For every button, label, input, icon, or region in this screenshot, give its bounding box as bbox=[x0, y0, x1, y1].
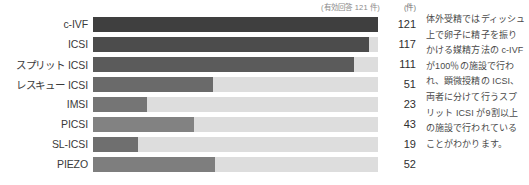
bar-category-label: c-IVF bbox=[0, 14, 88, 34]
bar-row: スプリット ICSI111 bbox=[0, 54, 420, 74]
bar-track bbox=[93, 117, 378, 132]
commentary-text: 体外受精ではディッシュ上で卵子に精子を振りかける媒精方法の c-IVF が100… bbox=[426, 12, 526, 152]
bar-track bbox=[93, 57, 378, 72]
bar-row: IMSI23 bbox=[0, 94, 420, 114]
bar-value-label: 43 bbox=[386, 114, 416, 134]
bar-row: PICSI43 bbox=[0, 114, 420, 134]
bar-track bbox=[93, 157, 378, 172]
bar-category-label: ICSI bbox=[0, 34, 88, 54]
bar-row: PIEZO52 bbox=[0, 154, 420, 174]
bar-value-label: 117 bbox=[386, 34, 416, 54]
bar-category-label: SL-ICSI bbox=[0, 134, 88, 154]
bar-fill bbox=[93, 137, 138, 152]
chart-header: (有効回答 121 件) (件) bbox=[0, 0, 420, 14]
bar-fill bbox=[93, 17, 378, 32]
bar-category-label: PIEZO bbox=[0, 154, 88, 174]
bar-track bbox=[93, 137, 378, 152]
bar-category-label: スプリット ICSI bbox=[0, 54, 88, 74]
bar-value-label: 121 bbox=[386, 14, 416, 34]
bar-row: ICSI117 bbox=[0, 34, 420, 54]
bar-fill bbox=[93, 57, 354, 72]
bar-value-label: 111 bbox=[386, 54, 416, 74]
bar-fill bbox=[93, 157, 215, 172]
bar-track bbox=[93, 97, 378, 112]
bar-track bbox=[93, 37, 378, 52]
bar-fill bbox=[93, 77, 213, 92]
bar-row: c-IVF121 bbox=[0, 14, 420, 34]
bar-track bbox=[93, 77, 378, 92]
commentary-paragraph: 体外受精ではディッシュ上で卵子に精子を振りかける媒精方法の c-IVF が100… bbox=[426, 12, 526, 152]
bar-category-label: レスキュー ICSI bbox=[0, 74, 88, 94]
bar-fill bbox=[93, 37, 369, 52]
bar-value-label: 51 bbox=[386, 74, 416, 94]
valid-responses-note: (有効回答 121 件) bbox=[321, 1, 380, 12]
screenshot-root: (有効回答 121 件) (件) c-IVF121ICSI117スプリット IC… bbox=[0, 0, 529, 185]
bar-category-label: IMSI bbox=[0, 94, 88, 114]
unit-label: (件) bbox=[404, 1, 416, 12]
bar-value-label: 52 bbox=[386, 154, 416, 174]
bar-track bbox=[93, 17, 378, 32]
bar-fill bbox=[93, 117, 194, 132]
bar-rows: c-IVF121ICSI117スプリット ICSI111レスキュー ICSI51… bbox=[0, 14, 420, 174]
bar-value-label: 23 bbox=[386, 94, 416, 114]
bar-fill bbox=[93, 97, 147, 112]
bar-value-label: 19 bbox=[386, 134, 416, 154]
bar-row: レスキュー ICSI51 bbox=[0, 74, 420, 94]
bar-row: SL-ICSI19 bbox=[0, 134, 420, 154]
bar-chart: (有効回答 121 件) (件) c-IVF121ICSI117スプリット IC… bbox=[0, 0, 420, 185]
bar-category-label: PICSI bbox=[0, 114, 88, 134]
